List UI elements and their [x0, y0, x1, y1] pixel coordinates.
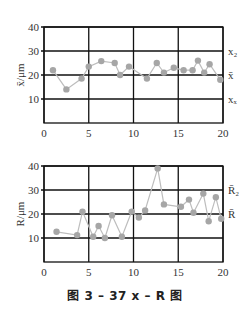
x-tick-label: 5	[86, 127, 92, 139]
x-tick-label: 0	[41, 266, 47, 278]
data-point	[205, 218, 211, 224]
y-axis-label: x̄/μm	[14, 63, 26, 86]
data-point	[142, 207, 148, 213]
y-tick-label: 10	[28, 93, 40, 105]
y-tick-label: 40	[28, 160, 40, 172]
data-point	[217, 77, 223, 83]
x-tick-label: 10	[128, 127, 140, 139]
data-point	[86, 63, 92, 69]
x-tick-label: 5	[86, 266, 92, 278]
data-point	[79, 208, 85, 214]
data-point	[90, 234, 96, 240]
data-point	[112, 60, 118, 66]
data-point	[189, 67, 195, 73]
data-point	[95, 223, 101, 229]
data-point	[98, 58, 104, 64]
x-tick-label: 10	[128, 266, 140, 278]
x-tick-label: 20	[218, 127, 230, 139]
data-point	[63, 86, 69, 92]
y-tick-label: 40	[28, 21, 40, 33]
control-limit-label: x₂	[228, 45, 238, 57]
data-point	[126, 63, 132, 69]
data-point	[201, 69, 207, 75]
data-point	[129, 208, 135, 214]
figure-caption: 图 3 – 37 x – R 图	[0, 286, 250, 303]
y-tick-label: 20	[28, 69, 40, 81]
control-limit-label: x̄	[228, 69, 234, 81]
y-tick-label: 20	[28, 208, 40, 220]
data-point	[195, 57, 201, 63]
x-tick-label: 20	[218, 266, 230, 278]
data-point	[117, 72, 123, 78]
data-point	[144, 75, 150, 81]
data-point	[190, 210, 196, 216]
data-point	[171, 65, 177, 71]
data-point	[74, 232, 80, 238]
x-tick-label: 15	[173, 127, 185, 139]
control-limit-label: R̄	[228, 208, 236, 220]
data-point	[154, 60, 160, 66]
data-point	[102, 235, 108, 241]
y-tick-label: 10	[28, 232, 40, 244]
series-line	[57, 168, 222, 238]
data-point	[178, 204, 184, 210]
control-limit-label: R̄₂	[228, 184, 239, 196]
control-limit-label: xₓ	[228, 93, 238, 105]
xbar-r-control-chart: 1020304005101520x̄/μmx₂x̄xₓ 102030400510…	[0, 0, 250, 312]
data-point	[180, 67, 186, 73]
data-point	[53, 229, 59, 235]
data-point	[186, 196, 192, 202]
y-axis-label: R/μm	[14, 201, 26, 226]
y-tick-label: 30	[28, 45, 40, 57]
data-point	[154, 165, 160, 171]
data-point	[109, 212, 115, 218]
x-tick-label: 15	[173, 266, 185, 278]
data-point	[50, 67, 56, 73]
data-point	[218, 216, 224, 222]
data-point	[206, 61, 212, 67]
data-point	[213, 194, 219, 200]
data-point	[161, 69, 167, 75]
x-tick-label: 0	[41, 127, 47, 139]
data-point	[78, 75, 84, 81]
data-point	[119, 234, 125, 240]
data-point	[161, 201, 167, 207]
data-point	[136, 214, 142, 220]
range-chart: 1020304005101520R/μmR̄₂R̄	[14, 160, 239, 278]
data-point	[200, 190, 206, 196]
xbar-chart: 1020304005101520x̄/μmx₂x̄xₓ	[14, 21, 238, 139]
y-tick-label: 30	[28, 184, 40, 196]
